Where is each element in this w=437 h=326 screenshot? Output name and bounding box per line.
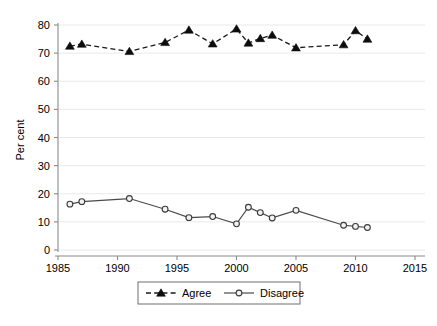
- x-tick-label-1995: 1995: [165, 262, 189, 274]
- x-tick-label-2000: 2000: [224, 262, 248, 274]
- marker-disagree-1986: [67, 201, 73, 207]
- x-tick-label-2015: 2015: [403, 262, 427, 274]
- y-tick-label-60: 60: [38, 75, 50, 87]
- line-chart: 01020304050607080 1985199019952000200520…: [0, 0, 437, 326]
- marker-agree-2010: [351, 26, 360, 33]
- x-tick-marks: [58, 256, 415, 260]
- y-tick-label-10: 10: [38, 216, 50, 228]
- marker-disagree-1996: [186, 215, 192, 221]
- legend-marker-disagree: [236, 290, 242, 296]
- marker-disagree-2001: [246, 204, 252, 210]
- x-tick-label-1990: 1990: [105, 262, 129, 274]
- axes: [55, 23, 425, 256]
- marker-agree-2003: [268, 31, 277, 38]
- marker-disagree-2010: [353, 223, 359, 229]
- marker-disagree-2009: [341, 222, 347, 228]
- y-tick-label-20: 20: [38, 188, 50, 200]
- marker-disagree-2005: [293, 207, 299, 213]
- marker-agree-1991: [125, 47, 134, 54]
- x-tick-label-1985: 1985: [46, 262, 70, 274]
- marker-disagree-1998: [210, 214, 216, 220]
- marker-agree-2005: [292, 44, 301, 51]
- legend-label-agree: Agree: [182, 287, 211, 299]
- y-tick-label-0: 0: [44, 244, 50, 256]
- marker-disagree-1991: [126, 196, 132, 202]
- chart-container: 01020304050607080 1985199019952000200520…: [0, 0, 437, 326]
- x-tick-label-2010: 2010: [343, 262, 367, 274]
- marker-disagree-1987: [79, 199, 85, 205]
- marker-agree-1998: [208, 40, 217, 47]
- y-axis-title: Per cent: [14, 120, 26, 161]
- marker-agree-2011: [363, 35, 372, 42]
- marker-disagree-1994: [162, 206, 168, 212]
- series-lines: [70, 29, 368, 228]
- marker-disagree-2000: [234, 221, 240, 227]
- marker-disagree-2002: [257, 210, 263, 216]
- y-tick-label-50: 50: [38, 103, 50, 115]
- marker-agree-2000: [232, 25, 241, 32]
- marker-disagree-2011: [365, 225, 371, 231]
- marker-agree-1987: [77, 40, 86, 47]
- y-tick-label-40: 40: [38, 132, 50, 144]
- y-tick-label-80: 80: [38, 19, 50, 31]
- series-line-agree: [70, 29, 368, 51]
- legend-label-disagree: Disagree: [260, 287, 304, 299]
- y-tick-marks: [54, 25, 58, 250]
- y-tick-labels: 01020304050607080: [38, 19, 50, 256]
- y-tick-label-70: 70: [38, 47, 50, 59]
- marker-disagree-2003: [269, 215, 275, 221]
- marker-agree-2009: [339, 40, 348, 47]
- x-tick-labels: 1985199019952000200520102015: [46, 262, 427, 274]
- series-line-disagree: [70, 199, 368, 228]
- y-tick-label-30: 30: [38, 160, 50, 172]
- marker-agree-1996: [184, 26, 193, 33]
- chart-legend[interactable]: AgreeDisagree: [138, 282, 304, 304]
- x-tick-label-2005: 2005: [284, 262, 308, 274]
- marker-agree-1994: [161, 38, 170, 45]
